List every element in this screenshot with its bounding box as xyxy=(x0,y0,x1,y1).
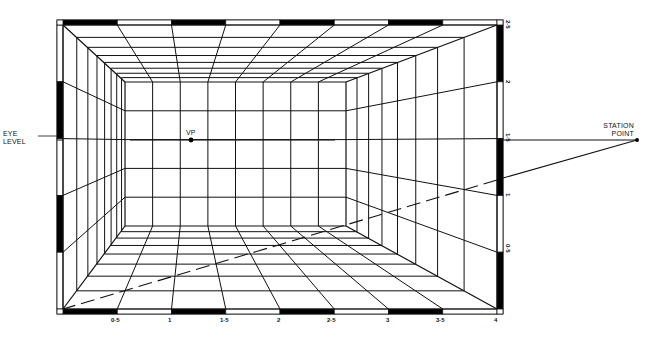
bottom-scale-tick-label: 2·5 xyxy=(327,317,336,323)
eye-level-label-line1: EYE xyxy=(3,130,26,137)
right-scale-segment xyxy=(497,139,503,196)
left-scale-segment xyxy=(57,139,63,196)
right-scale-segment xyxy=(497,195,503,252)
top-scale-segment xyxy=(389,20,443,25)
room-edge xyxy=(63,226,125,309)
room-edge xyxy=(346,226,497,309)
vanishing-point-label: VP xyxy=(186,129,196,136)
corner-box xyxy=(57,20,63,25)
bottom-scale-segment xyxy=(280,309,334,314)
right-scale-tick-label: 1 xyxy=(505,193,511,196)
bottom-scale-segment xyxy=(117,309,171,314)
bottom-scale-segment xyxy=(389,309,443,314)
bottom-scale-tick-label: 1 xyxy=(168,317,171,323)
top-scale-segment xyxy=(226,20,280,25)
right-scale-tick-label: 0·5 xyxy=(505,244,511,253)
bottom-scale-segment xyxy=(226,309,280,314)
left-scale-segment xyxy=(57,252,63,309)
station-point-label-line2: POINT xyxy=(598,130,634,137)
station-point-label: STATION POINT xyxy=(598,122,634,137)
bottom-scale-tick-label: 0·5 xyxy=(111,317,120,323)
room-edge xyxy=(63,25,125,82)
left-wall-orthogonal xyxy=(63,197,125,252)
top-scale-segment xyxy=(172,20,226,25)
diagonal-measuring-line xyxy=(503,140,637,178)
left-wall-orthogonal xyxy=(63,168,125,195)
left-scale-segment xyxy=(57,25,63,82)
perspective-diagram: EYE LEVEL STATION POINT VP 0·5 1 1·5 2 2… xyxy=(0,0,657,339)
right-scale-segment xyxy=(497,252,503,309)
bottom-scale-tick-label: 1·5 xyxy=(220,317,229,323)
perspective-grid-drawing xyxy=(0,0,657,339)
top-scale-segment xyxy=(280,20,334,25)
corner-box xyxy=(497,309,503,314)
left-wall-orthogonal xyxy=(63,82,125,111)
left-scale-segment xyxy=(57,195,63,252)
left-scale-segment xyxy=(57,82,63,139)
right-scale-segment xyxy=(497,25,503,82)
top-scale-segment xyxy=(334,20,388,25)
corner-box xyxy=(497,20,503,25)
eye-level-label: EYE LEVEL xyxy=(3,130,26,145)
bottom-scale-tick-label: 3·5 xyxy=(436,317,445,323)
vanishing-point-dot xyxy=(189,138,194,143)
top-scale-segment xyxy=(443,20,497,25)
diagonal-measuring-line-dashed xyxy=(63,180,497,309)
outer-frame xyxy=(57,20,503,314)
top-scale-segment xyxy=(63,20,117,25)
station-point-dot xyxy=(635,138,639,142)
right-scale-tick-label: 1·5 xyxy=(505,133,511,142)
bottom-scale-segment xyxy=(334,309,388,314)
eye-level-label-line2: LEVEL xyxy=(3,138,26,145)
bottom-scale-segment xyxy=(443,309,497,314)
bottom-scale-segment xyxy=(172,309,226,314)
right-scale-segment xyxy=(497,82,503,139)
left-wall-orthogonal xyxy=(63,139,125,140)
corner-box xyxy=(57,309,63,314)
bottom-scale-segment xyxy=(63,309,117,314)
bottom-scale-tick-label: 4 xyxy=(494,317,497,323)
top-scale-segment xyxy=(117,20,171,25)
station-point-label-line1: STATION xyxy=(598,122,634,129)
bottom-scale-tick-label: 2 xyxy=(277,317,280,323)
bottom-scale-tick-label: 3 xyxy=(386,317,389,323)
right-scale-tick-label: 2 xyxy=(505,80,511,83)
right-scale-tick-label: 2·5 xyxy=(505,20,511,29)
